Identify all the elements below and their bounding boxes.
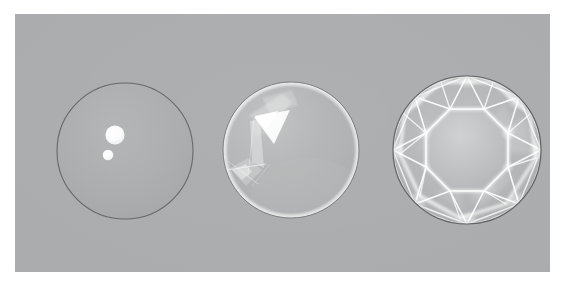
figure-plain-sphere[interactable]: Plain sphere [42,58,208,244]
figure-brilliant-diamond[interactable]: Round brilliant diamond [376,58,550,244]
plain-sphere-body [57,83,193,219]
glossy-sphere-svg [208,58,374,244]
plain-sphere-primary-highlight [105,125,124,144]
screenshot-root: Plain sphere [0,0,564,287]
plain-sphere-secondary-highlight [103,150,114,161]
figure-glossy-sphere[interactable]: Glossy sphere [208,58,374,244]
render-panel: Plain sphere [15,14,550,272]
brilliant-diamond-svg [376,58,550,244]
plain-sphere-svg [42,58,208,244]
glossy-sphere-rim-highlight [223,82,359,218]
